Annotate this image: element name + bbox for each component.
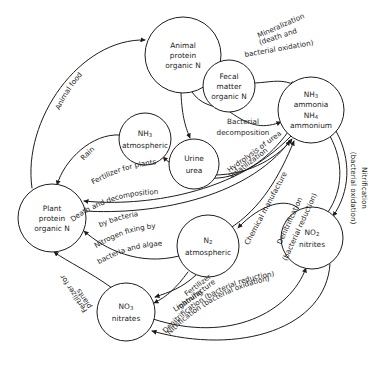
node-nh3-ammonia-nh4-ammonium[interactable]: NH3 ammonia NH4 ammonium bbox=[278, 77, 344, 143]
nh3-atmospheric-circle[interactable] bbox=[119, 113, 171, 165]
fecal-matter-line-3: organic N bbox=[211, 92, 246, 101]
ammonia-word-ammonia: ammonia bbox=[294, 100, 329, 109]
nitrogen-cycle-canvas: Animal protein organic N Fecal matter or… bbox=[0, 0, 382, 366]
no2-nitrites-word: nitrites bbox=[299, 240, 325, 249]
fecal-matter-line-1: Fecal bbox=[219, 72, 238, 81]
label-nitrification-right-line-2: (bacterial oxidation) bbox=[349, 152, 358, 225]
n2-atmospheric-circle[interactable] bbox=[177, 215, 239, 277]
edge-ammonia-to-no2-rail bbox=[328, 136, 340, 212]
label-fertilizer-for-plants-left-line-1: Fertilizer for bbox=[0, 0, 89, 314]
nh3-atmospheric-word: atmospheric bbox=[122, 141, 168, 150]
plant-protein-line-3: organic N bbox=[34, 224, 69, 233]
label-mineralization-line-3: bacterial oxidation) bbox=[244, 38, 314, 59]
fecal-matter-line-2: matter bbox=[216, 82, 242, 91]
label-bacterial-decomposition-line-2: decomposition bbox=[217, 128, 270, 137]
node-urine-urea[interactable]: Urine urea bbox=[169, 139, 219, 189]
urine-urea-circle[interactable] bbox=[169, 139, 219, 189]
node-no3-nitrates[interactable]: NO3 nitrates bbox=[97, 283, 155, 341]
plant-protein-line-1: Plant bbox=[43, 204, 62, 213]
animal-protein-line-3: organic N bbox=[165, 61, 200, 70]
label-animal-food: Animal food bbox=[0, 0, 152, 111]
animal-protein-line-2: protein bbox=[170, 51, 197, 60]
urine-urea-line-1: Urine bbox=[184, 154, 204, 163]
node-nh3-atmospheric[interactable]: NH3 atmospheric bbox=[119, 113, 171, 165]
animal-protein-line-1: Animal bbox=[170, 41, 196, 50]
ammonia-circle[interactable] bbox=[278, 77, 344, 143]
label-rain: Rain bbox=[0, 0, 135, 162]
label-bacterial-decomposition-line-1: Bacterial bbox=[227, 117, 259, 126]
plant-protein-line-2: protein bbox=[39, 214, 66, 223]
node-layer: Animal protein organic N Fecal matter or… bbox=[18, 17, 344, 341]
nitrogen-cycle-diagram: Animal protein organic N Fecal matter or… bbox=[0, 0, 382, 366]
no3-nitrates-circle[interactable] bbox=[97, 283, 155, 341]
edge-animal-to-urine bbox=[181, 93, 190, 138]
label-nitrification-right-line-1: Nitrification bbox=[360, 167, 369, 209]
node-n2-atmospheric[interactable]: N2 atmospheric bbox=[177, 215, 239, 277]
no3-nitrates-word: nitrates bbox=[112, 314, 141, 323]
urine-urea-line-2: urea bbox=[186, 166, 203, 175]
node-fecal-matter-organic-n[interactable]: Fecal matter organic N bbox=[203, 60, 255, 112]
